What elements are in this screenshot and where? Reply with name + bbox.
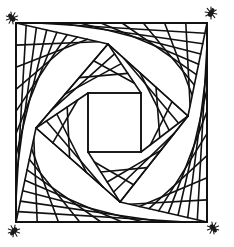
- spider-icon: [6, 223, 21, 238]
- fan-line-top-left: [16, 30, 47, 156]
- inner-fan-line-top: [65, 64, 121, 95]
- fan-line-bottom-left: [34, 138, 37, 222]
- fan-lines: [16, 23, 207, 222]
- spider-icon: [204, 6, 219, 21]
- fan-line-top-right: [80, 23, 201, 54]
- inner-square: [88, 93, 141, 152]
- fan-line-top-left: [16, 42, 98, 45]
- fan-line-top-right: [186, 23, 190, 106]
- inner-fan-line-right: [140, 73, 169, 131]
- fan-line-bottom-right: [130, 200, 207, 204]
- fan-line-top-right: [58, 23, 202, 44]
- inner-fan-line-left: [57, 114, 87, 172]
- inner-fan-line-bottom: [114, 133, 175, 192]
- inner-fan-line-top: [50, 54, 114, 111]
- line-art-canvas: [0, 0, 234, 247]
- inner-fan-line-bottom: [107, 150, 161, 182]
- inner-fan-line-right: [124, 58, 179, 123]
- inner-fan-line-bottom: [94, 162, 133, 185]
- inner-fan-line-left: [46, 121, 103, 187]
- fan-line-bottom-right: [178, 89, 207, 215]
